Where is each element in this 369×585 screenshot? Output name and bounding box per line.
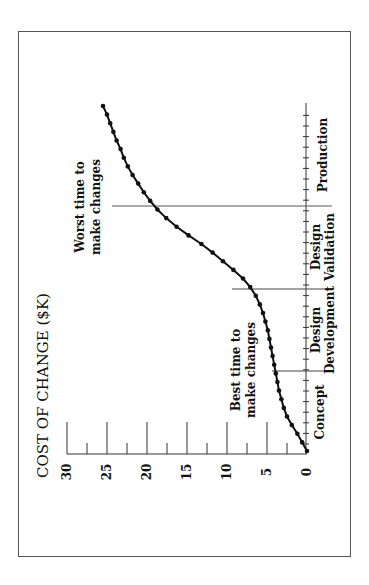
chart-title: COST OF CHANGE ($K) (34, 293, 52, 478)
data-point (277, 388, 282, 393)
data-point (186, 233, 191, 238)
worst-time-annotation-1: Worst time to (73, 161, 87, 253)
phase-design-validation-label-2: Validation (323, 213, 337, 282)
time-axis (303, 103, 309, 454)
data-point (108, 121, 113, 126)
data-point (290, 423, 295, 428)
data-point (136, 181, 141, 186)
phase-labels: Concept Design Development Design Valida… (309, 117, 337, 439)
data-point (263, 319, 268, 324)
phase-design-validation-label-1: Design (309, 223, 323, 270)
data-point (258, 302, 263, 307)
phase-dividers (112, 206, 332, 371)
data-point (267, 337, 272, 342)
data-point (282, 406, 287, 411)
best-time-annotation-1: Best time to (229, 329, 243, 411)
data-point (111, 130, 116, 135)
data-point (174, 225, 179, 230)
data-point (130, 173, 135, 178)
data-point (261, 311, 266, 316)
data-point (101, 104, 106, 109)
data-point (114, 138, 119, 143)
phase-design-development-label-2: Development (323, 285, 337, 374)
data-point (199, 242, 204, 247)
cost-tick-label: 10 (220, 464, 234, 481)
data-point (274, 371, 279, 376)
data-point (248, 285, 253, 290)
data-point (221, 259, 226, 264)
data-point (254, 294, 259, 299)
data-point (270, 354, 275, 359)
data-point (122, 156, 127, 161)
cost-axis: 051015202530 (60, 422, 314, 480)
data-point (105, 112, 110, 117)
phase-design-development-label-1: Design (309, 306, 323, 353)
cost-tick-label: 15 (180, 464, 194, 481)
data-point (126, 164, 131, 169)
data-point (164, 216, 169, 221)
cost-curve (101, 104, 310, 454)
data-point (279, 397, 284, 402)
data-point (300, 440, 305, 445)
data-point (305, 449, 310, 454)
data-point (269, 345, 274, 350)
data-point (148, 199, 153, 204)
data-point (275, 380, 280, 385)
phase-concept-label: Concept (313, 384, 327, 440)
data-point (295, 432, 300, 437)
annotations: Best time to make changes Worst time to … (73, 159, 258, 418)
data-point (285, 414, 290, 419)
cost-tick-label: 5 (260, 468, 274, 476)
data-point (142, 190, 147, 195)
worst-time-annotation-2: make changes (89, 159, 103, 255)
cost-tick-label: 0 (300, 468, 314, 476)
cost-of-change-chart: 051015202530 COST OF CHANGE ($K) Concept… (0, 0, 369, 585)
cost-tick-label: 20 (140, 464, 154, 481)
data-point (272, 363, 277, 368)
cost-tick-label: 25 (100, 464, 114, 481)
cost-tick-label: 30 (60, 464, 74, 481)
data-point (118, 147, 123, 152)
data-point (266, 328, 271, 333)
data-point (210, 250, 215, 255)
data-point (231, 268, 236, 273)
data-point (241, 276, 246, 281)
data-point (155, 207, 160, 212)
best-time-annotation-2: make changes (244, 322, 258, 418)
phase-production-label: Production (316, 117, 330, 192)
